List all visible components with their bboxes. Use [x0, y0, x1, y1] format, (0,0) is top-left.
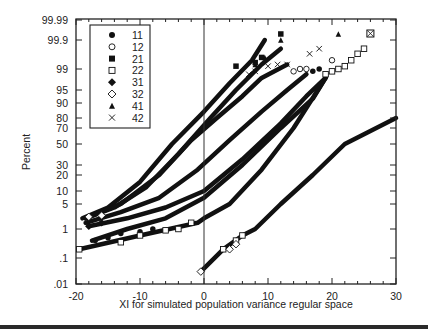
- filled-circle-marker-icon: [109, 32, 115, 38]
- x-tick-label: 30: [390, 290, 402, 302]
- y-tick-label: 99.99: [42, 14, 68, 26]
- y-tick-label: 10: [56, 185, 68, 197]
- y-tick-label: 99: [56, 63, 68, 75]
- legend-label: 32: [132, 88, 144, 100]
- y-tick-label: .1: [59, 252, 68, 264]
- open-circle-marker-icon: [109, 44, 115, 50]
- legend-label: 22: [132, 64, 144, 76]
- legend-label: 11: [132, 29, 143, 41]
- y-tick-label: 50: [56, 138, 68, 150]
- y-tick-label: 30: [56, 159, 68, 171]
- y-tick-label: .01: [53, 278, 68, 290]
- bottom-border: [0, 325, 428, 329]
- y-tick-label: 90: [56, 97, 68, 109]
- legend-label: 31: [132, 76, 144, 88]
- probability-plot: -20-100102030 .01.1151020305070809095999…: [0, 0, 428, 329]
- legend-label: 21: [132, 53, 144, 65]
- y-axis-label: Percent: [20, 134, 32, 170]
- x-tick-label: -20: [68, 290, 83, 302]
- open-square-marker-icon: [109, 67, 115, 73]
- y-tick-label: 5: [62, 198, 68, 210]
- legend-label: 41: [132, 100, 144, 112]
- legend-label: 42: [132, 112, 144, 124]
- y-tick-label: 95: [56, 84, 68, 96]
- filled-square-marker-icon: [109, 56, 115, 62]
- y-tick-label: 99.9: [48, 34, 69, 46]
- y-tick-label: 80: [56, 112, 68, 124]
- x-axis-label: XI for simulated population variance reg…: [119, 298, 353, 310]
- legend-label: 12: [132, 41, 144, 53]
- legend: 1112212231324142: [90, 25, 150, 128]
- y-tick-label: 1: [62, 223, 68, 235]
